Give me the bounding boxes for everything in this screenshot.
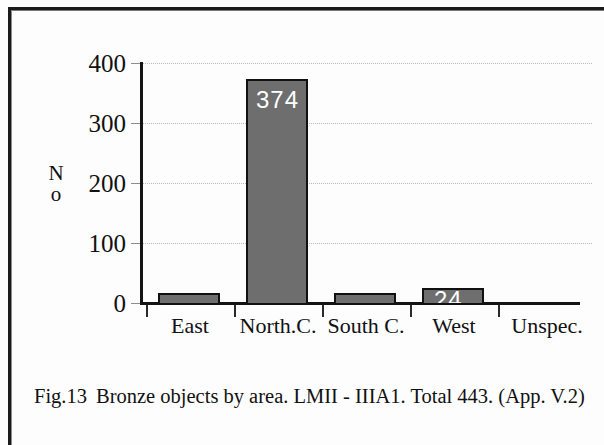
scanned-page: 400 300 200 100 0 N o 374 24 — [0, 0, 604, 445]
gridline-400 — [140, 63, 592, 65]
ytick-label-300: 300 — [46, 111, 126, 136]
xtick-label-west: West — [410, 313, 498, 339]
y-axis — [140, 62, 143, 305]
figure-caption-text: Bronze objects by area. LMII - IIIA1. To… — [96, 385, 585, 407]
ytick-label-100: 100 — [46, 231, 126, 256]
bar-value-north-c: 374 — [256, 88, 299, 112]
gridline-200 — [140, 183, 592, 185]
bar-east — [158, 293, 220, 305]
bar-value-west: 24 — [434, 288, 463, 305]
xtick-label-south-c: South C. — [322, 313, 410, 339]
figure-caption-label: Fig.13 — [34, 385, 87, 407]
gridline-300 — [140, 123, 592, 125]
ytick-label-400: 400 — [46, 51, 126, 76]
xtick-label-north-c: North.C. — [234, 313, 322, 339]
bar-west: 24 — [422, 288, 484, 305]
gridline-100 — [140, 243, 592, 245]
bar-south-c — [334, 293, 396, 305]
xtick-label-east: East — [146, 313, 234, 339]
y-axis-title-line-1: N — [44, 163, 68, 184]
xtick-label-unspec: Unspec. — [498, 313, 596, 339]
figure-caption: Fig.13Bronze objects by area. LMII - III… — [34, 383, 604, 409]
ytick-label-0: 0 — [46, 291, 126, 316]
bar-chart: 400 300 200 100 0 N o 374 24 — [0, 0, 604, 350]
y-axis-title-line-2: o — [44, 184, 68, 205]
y-axis-title: N o — [44, 163, 68, 205]
